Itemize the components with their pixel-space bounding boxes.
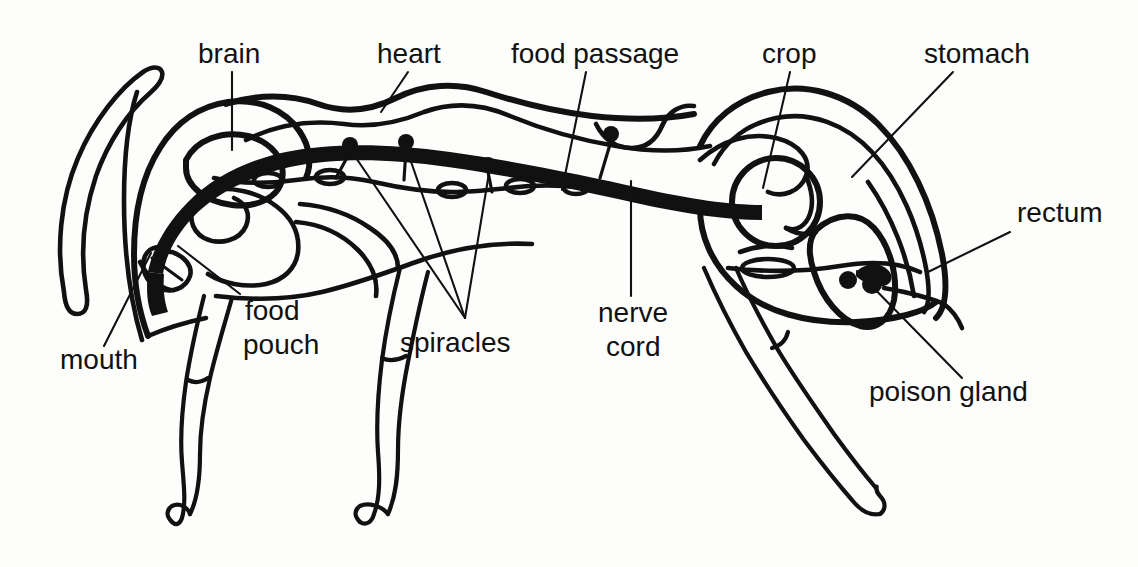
thorax-outline [226, 86, 694, 119]
ant-body-artwork [60, 68, 962, 525]
ant-anatomy-svg: brain heart food passage crop stomach re… [0, 0, 1138, 567]
middle-leg [356, 268, 429, 524]
label-poison-gland: poison gland [869, 376, 1028, 407]
label-food-pouch-line2: pouch [243, 329, 319, 360]
label-heart: heart [377, 38, 441, 69]
label-crop: crop [762, 38, 816, 69]
hind-leg [704, 268, 885, 514]
label-nerve-cord-line2: cord [606, 331, 660, 362]
label-food-pouch-line1: food [245, 295, 300, 326]
label-rectum: rectum [1017, 197, 1103, 228]
tracheal-trunk [296, 222, 376, 296]
ant-anatomy-figure: brain heart food passage crop stomach re… [0, 0, 1138, 567]
label-spiracles: spiracles [400, 327, 510, 358]
leader-food-pouch [178, 246, 240, 294]
leader-spiracle-2 [407, 150, 465, 318]
label-stomach: stomach [924, 38, 1030, 69]
leader-food-passage [562, 72, 586, 190]
heart-organ [246, 106, 710, 151]
leader-stomach [852, 72, 953, 177]
front-leg [168, 296, 233, 524]
label-nerve-cord-line1: nerve [598, 297, 668, 328]
label-food-passage: food passage [511, 38, 679, 69]
antenna [60, 68, 162, 341]
leader-spiracle-1 [352, 152, 465, 318]
label-brain: brain [198, 38, 260, 69]
label-mouth: mouth [60, 344, 138, 375]
